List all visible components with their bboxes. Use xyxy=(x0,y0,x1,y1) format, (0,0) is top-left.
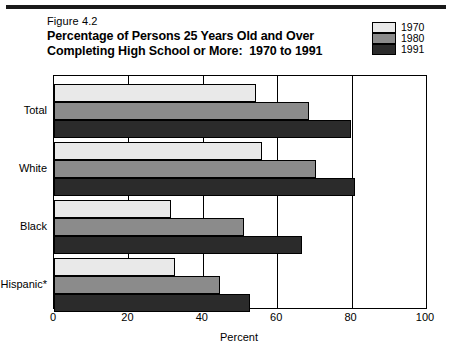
y-axis-label-white: White xyxy=(0,162,47,174)
legend-swatch-1991 xyxy=(372,44,396,55)
bar-hispanic-1991 xyxy=(54,294,250,312)
y-axis-label-total: Total xyxy=(0,104,47,116)
bar-black-1970 xyxy=(54,200,171,218)
plot-area xyxy=(53,75,427,309)
legend-swatch-1980 xyxy=(372,33,396,44)
legend-item-1991: 1991 xyxy=(372,44,424,55)
figure-title-line-1: Percentage of Persons 25 Years Old and O… xyxy=(47,29,357,44)
figure-number: Figure 4.2 xyxy=(47,14,357,28)
top-divider-rule xyxy=(6,5,446,9)
chart-legend: 1970 1980 1991 xyxy=(372,22,424,55)
bar-black-1980 xyxy=(54,218,244,236)
bar-white-1980 xyxy=(54,160,316,178)
x-tick-label-40: 40 xyxy=(187,311,217,323)
x-axis-title: Percent xyxy=(53,331,425,343)
x-tick-label-0: 0 xyxy=(38,311,68,323)
y-axis-label-black: Black xyxy=(0,220,47,232)
y-axis-label-hispanic: Hispanic* xyxy=(0,278,47,290)
bar-total-1980 xyxy=(54,102,309,120)
figure-container: Figure 4.2 Percentage of Persons 25 Year… xyxy=(0,0,452,358)
legend-swatch-1970 xyxy=(372,22,396,33)
bar-hispanic-1970 xyxy=(54,258,175,276)
bar-hispanic-1980 xyxy=(54,276,220,294)
figure-header: Figure 4.2 Percentage of Persons 25 Year… xyxy=(47,14,357,59)
bar-total-1991 xyxy=(54,120,351,138)
x-tick-label-80: 80 xyxy=(336,311,366,323)
bar-white-1991 xyxy=(54,178,355,196)
legend-label-1991: 1991 xyxy=(401,44,424,55)
x-tick-label-20: 20 xyxy=(112,311,142,323)
bar-black-1991 xyxy=(54,236,302,254)
bar-total-1970 xyxy=(54,84,256,102)
x-tick-label-100: 100 xyxy=(410,311,440,323)
figure-title: Percentage of Persons 25 Years Old and O… xyxy=(47,29,357,59)
x-tick-label-60: 60 xyxy=(261,311,291,323)
figure-title-line-2: Completing High School or More: 1970 to … xyxy=(47,44,357,59)
bar-white-1970 xyxy=(54,142,262,160)
